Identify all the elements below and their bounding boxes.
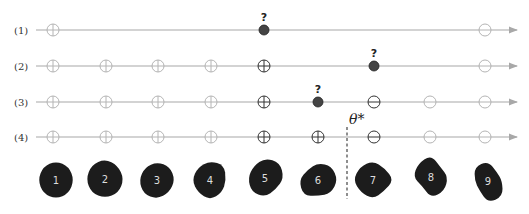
query-mark: ? bbox=[315, 83, 321, 96]
positive-label-icon bbox=[205, 60, 217, 72]
sample-1: 1 bbox=[39, 162, 72, 197]
sample-label: 9 bbox=[485, 176, 491, 187]
negative-label-icon bbox=[368, 96, 380, 108]
sample-label: 4 bbox=[207, 175, 213, 186]
positive-label-icon bbox=[258, 96, 270, 108]
negative-label-icon bbox=[479, 24, 491, 36]
row-1: (1)? bbox=[14, 11, 517, 36]
sample-4: 4 bbox=[193, 162, 225, 198]
negative-label-icon bbox=[368, 131, 380, 143]
positive-label-icon bbox=[312, 131, 324, 143]
row-label: (2) bbox=[14, 61, 28, 72]
sample-label: 2 bbox=[102, 174, 108, 185]
sample-label: 6 bbox=[315, 175, 321, 186]
positive-label-icon bbox=[258, 60, 270, 72]
positive-label-icon bbox=[258, 131, 270, 143]
negative-label-icon bbox=[479, 60, 491, 72]
negative-label-icon bbox=[424, 96, 436, 108]
sample-9: 9 bbox=[475, 163, 503, 201]
threshold-label: θ* bbox=[349, 111, 364, 127]
negative-label-icon bbox=[424, 131, 436, 143]
negative-label-icon bbox=[479, 96, 491, 108]
positive-label-icon bbox=[152, 60, 164, 72]
sample-label: 1 bbox=[53, 175, 59, 186]
positive-label-icon bbox=[100, 131, 112, 143]
positive-label-icon bbox=[100, 60, 112, 72]
positive-label-icon bbox=[47, 96, 59, 108]
row-2: (2)? bbox=[14, 47, 517, 72]
sample-5: 5 bbox=[249, 159, 283, 195]
row-label: (4) bbox=[14, 132, 28, 143]
binary-search-threshold-diagram: (1)?(2)?(3)?(4)θ*123456789 bbox=[0, 0, 529, 214]
diagram-canvas: (1)?(2)?(3)?(4)θ*123456789 bbox=[0, 0, 529, 214]
query-point-icon bbox=[259, 25, 269, 35]
negative-label-icon bbox=[479, 131, 491, 143]
row-label: (3) bbox=[14, 97, 28, 108]
positive-label-icon bbox=[47, 24, 59, 36]
positive-label-icon bbox=[152, 96, 164, 108]
query-point-icon bbox=[313, 97, 323, 107]
positive-label-icon bbox=[152, 131, 164, 143]
positive-label-icon bbox=[205, 96, 217, 108]
sample-label: 8 bbox=[428, 172, 434, 183]
sample-7: 7 bbox=[355, 163, 392, 198]
sample-3: 3 bbox=[140, 163, 173, 197]
sample-2: 2 bbox=[87, 161, 122, 197]
sample-label: 7 bbox=[370, 175, 376, 186]
row-3: (3)? bbox=[14, 83, 517, 108]
query-mark: ? bbox=[261, 11, 267, 24]
positive-label-icon bbox=[100, 96, 112, 108]
row-label: (1) bbox=[14, 25, 28, 36]
query-mark: ? bbox=[371, 47, 377, 60]
sample-6: 6 bbox=[300, 164, 336, 196]
sample-label: 3 bbox=[154, 175, 160, 186]
sample-8: 8 bbox=[415, 158, 447, 196]
positive-label-icon bbox=[205, 131, 217, 143]
positive-label-icon bbox=[47, 131, 59, 143]
positive-label-icon bbox=[47, 60, 59, 72]
row-4: (4) bbox=[14, 131, 517, 143]
query-point-icon bbox=[369, 61, 379, 71]
sample-label: 5 bbox=[262, 173, 268, 184]
